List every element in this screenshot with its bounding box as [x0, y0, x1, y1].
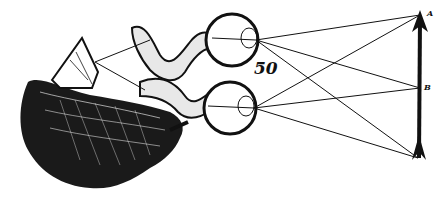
diagram-svg: [0, 0, 446, 203]
label-b: B: [424, 82, 431, 92]
label-a: A: [427, 8, 433, 18]
pineal-gland: [52, 38, 98, 88]
diagram-figure: 50 A B: [0, 0, 446, 203]
figure-number: 50: [254, 58, 278, 78]
optic-nerves: [132, 27, 212, 118]
